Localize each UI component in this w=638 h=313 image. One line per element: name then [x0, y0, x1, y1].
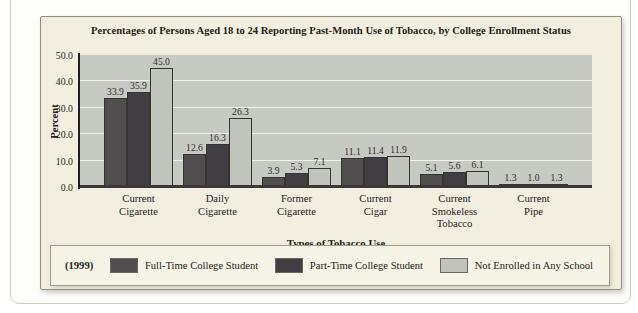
bar-value-label: 11.4 — [367, 145, 383, 156]
bar-value-label: 1.3 — [551, 172, 563, 183]
bar-value-label: 1.0 — [528, 172, 540, 183]
bar-value-label: 5.6 — [449, 160, 461, 171]
bar-column: 5.6 — [443, 160, 466, 187]
x-category-label: CurrentPipe — [499, 193, 568, 231]
bar-group: 12.616.326.3 — [183, 106, 252, 187]
bar-value-label: 6.1 — [472, 159, 484, 170]
bar-group: 5.15.66.1 — [420, 159, 489, 187]
legend-swatch — [440, 258, 468, 273]
x-category-label: FormerCigarette — [262, 193, 331, 231]
x-axis-category-labels: CurrentCigaretteDailyCigaretteFormerCiga… — [80, 193, 592, 231]
y-tick-label: 10.0 — [56, 156, 73, 167]
legend-swatch — [110, 258, 138, 273]
bar-groups: 33.935.945.012.616.326.33.95.37.111.111.… — [80, 55, 592, 187]
bar-group: 3.95.37.1 — [262, 156, 331, 187]
bar-column: 35.9 — [127, 80, 150, 187]
bar-value-label: 7.1 — [314, 156, 326, 167]
bar-value-label: 35.9 — [130, 80, 147, 91]
bar-value-label: 11.1 — [344, 146, 360, 157]
bar — [229, 118, 252, 187]
bar-value-label: 45.0 — [153, 56, 170, 67]
bar-column: 6.1 — [466, 159, 489, 187]
x-axis-line — [80, 185, 592, 188]
legend: (1999) Full-Time College Student Part-Ti… — [50, 245, 610, 286]
legend-swatch — [275, 258, 303, 273]
bar — [150, 68, 173, 187]
legend-item-label: Not Enrolled in Any School — [475, 260, 593, 271]
bar-value-label: 16.3 — [209, 132, 226, 143]
legend-item: Full-Time College Student — [110, 258, 258, 273]
y-tick-label: 20.0 — [56, 129, 73, 140]
y-tick-label: 40.0 — [56, 76, 73, 87]
bar-column: 11.1 — [341, 146, 364, 187]
x-category-label: CurrentSmokelessTobacco — [420, 193, 489, 231]
bar-value-label: 3.9 — [268, 165, 280, 176]
legend-item: Part-Time College Student — [275, 258, 423, 273]
bar-column: 3.9 — [262, 165, 285, 187]
y-tick-label: 0.0 — [61, 182, 73, 193]
bar-column: 5.1 — [420, 162, 443, 187]
bar-column: 7.1 — [308, 156, 331, 187]
bar-value-label: 33.9 — [107, 86, 124, 97]
bar-column: 26.3 — [229, 106, 252, 187]
bar — [206, 144, 229, 187]
figure-title: Percentages of Persons Aged 18 to 24 Rep… — [41, 25, 621, 36]
bar-value-label: 5.1 — [426, 162, 438, 173]
bar — [104, 98, 127, 187]
bar-column: 11.9 — [387, 144, 410, 187]
bar-group: 11.111.411.9 — [341, 144, 410, 187]
y-axis-tick-labels: 0.010.020.030.040.050.0 — [41, 55, 75, 187]
bar — [387, 156, 410, 187]
y-tick-label: 30.0 — [56, 103, 73, 114]
legend-item-label: Part-Time College Student — [310, 260, 423, 271]
bar-group: 33.935.945.0 — [104, 56, 173, 187]
x-category-label: CurrentCigarette — [104, 193, 173, 231]
bar-column: 5.3 — [285, 161, 308, 187]
bar-column: 33.9 — [104, 86, 127, 187]
plot-area: 33.935.945.012.616.326.33.95.37.111.111.… — [80, 55, 592, 187]
bar — [341, 158, 364, 187]
bar — [183, 154, 206, 187]
bar-column: 45.0 — [150, 56, 173, 187]
bar-column: 16.3 — [206, 132, 229, 187]
bar-value-label: 1.3 — [505, 172, 517, 183]
bar-value-label: 12.6 — [186, 142, 203, 153]
bar-column: 12.6 — [183, 142, 206, 187]
x-category-label: DailyCigarette — [183, 193, 252, 231]
bar — [364, 157, 387, 187]
y-tick-label: 50.0 — [56, 50, 73, 61]
x-category-label: CurrentCigar — [341, 193, 410, 231]
bar-value-label: 5.3 — [291, 161, 303, 172]
legend-item: Not Enrolled in Any School — [440, 258, 593, 273]
bar — [127, 92, 150, 187]
bar-value-label: 11.9 — [390, 144, 406, 155]
bar-value-label: 26.3 — [232, 106, 249, 117]
bar-column: 11.4 — [364, 145, 387, 187]
legend-item-label: Full-Time College Student — [145, 260, 258, 271]
figure-panel: Percentages of Persons Aged 18 to 24 Rep… — [40, 16, 622, 290]
legend-year-label: (1999) — [65, 260, 93, 271]
